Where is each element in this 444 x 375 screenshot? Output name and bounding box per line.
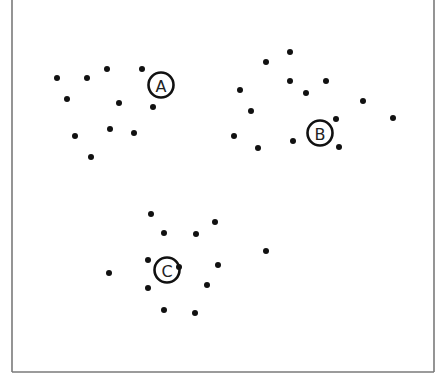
data-point [204, 282, 210, 288]
data-point [248, 108, 254, 114]
clusters: ABC [54, 49, 396, 316]
data-point [116, 100, 122, 106]
data-point [131, 130, 137, 136]
data-point [193, 231, 199, 237]
data-point [290, 138, 296, 144]
data-point [323, 78, 329, 84]
cluster-diagram: ABC [0, 0, 444, 375]
data-point [360, 98, 366, 104]
data-point [192, 310, 198, 316]
cluster-c: C [106, 211, 269, 316]
data-point [215, 262, 221, 268]
data-point [145, 257, 151, 263]
data-point [161, 307, 167, 313]
data-point [255, 145, 261, 151]
data-point [263, 59, 269, 65]
plot-frame [12, 0, 434, 372]
diagram-canvas: ABC [0, 0, 444, 375]
data-point [263, 248, 269, 254]
cluster-b: B [231, 49, 396, 151]
centroid-c: C [155, 258, 180, 283]
data-point [139, 66, 145, 72]
data-point [231, 133, 237, 139]
data-point [106, 270, 112, 276]
data-point [303, 90, 309, 96]
data-point [84, 75, 90, 81]
centroid-label: C [161, 262, 172, 281]
data-point [145, 285, 151, 291]
data-point [161, 230, 167, 236]
data-point [287, 49, 293, 55]
cluster-a: A [54, 66, 174, 160]
data-point [333, 116, 339, 122]
data-point [176, 264, 182, 270]
data-point [72, 133, 78, 139]
data-point [150, 104, 156, 110]
data-point [107, 126, 113, 132]
data-point [336, 144, 342, 150]
data-point [390, 115, 396, 121]
centroid-label: B [315, 125, 326, 144]
data-point [64, 96, 70, 102]
data-point [88, 154, 94, 160]
data-point [237, 87, 243, 93]
data-point [54, 75, 60, 81]
centroid-label: A [156, 77, 167, 96]
data-point [212, 219, 218, 225]
data-point [148, 211, 154, 217]
data-point [287, 78, 293, 84]
data-point [104, 66, 110, 72]
centroid-a: A [149, 73, 174, 98]
centroid-b: B [308, 121, 333, 146]
